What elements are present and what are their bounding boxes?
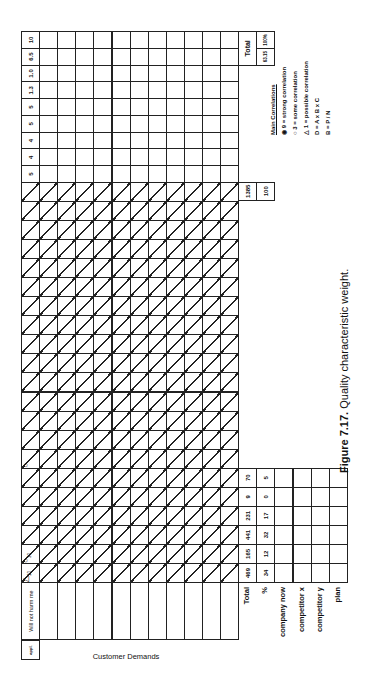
matrix-cell — [93, 468, 112, 488]
customer-demands-title: Customer Demands — [81, 652, 171, 664]
matrix-cell — [39, 430, 58, 450]
weight-cell — [57, 81, 76, 99]
matrix-cell — [93, 334, 112, 354]
matrix-cell — [57, 182, 76, 202]
matrix-cell — [75, 239, 94, 259]
matrix-cell — [184, 563, 203, 583]
weight-cell — [57, 148, 76, 166]
weight-cell — [57, 48, 76, 66]
weight-cell — [220, 148, 239, 166]
matrix-cell — [57, 544, 76, 564]
weight-cell — [57, 165, 76, 183]
matrix-cell — [202, 449, 221, 469]
circle-mark-icon: ○ — [22, 463, 30, 468]
weight-cell — [75, 148, 94, 166]
summary-cell — [293, 468, 312, 488]
matrix-cell — [202, 544, 221, 564]
weight-cell — [148, 132, 167, 150]
matrix-cell — [75, 334, 94, 354]
matrix-cell — [39, 258, 58, 278]
weight-cell — [148, 81, 167, 99]
matrix-cell — [184, 239, 203, 259]
matrix-cell — [112, 449, 131, 469]
matrix-cell — [184, 430, 203, 450]
matrix-cell — [75, 296, 94, 316]
matrix-cell — [39, 487, 58, 507]
demand-label — [112, 582, 131, 640]
weight-cell — [148, 98, 167, 116]
weight-cell — [39, 81, 58, 99]
matrix-cell — [202, 239, 221, 259]
matrix-cell — [220, 544, 239, 564]
matrix-cell — [148, 544, 167, 564]
weight-cell — [202, 31, 221, 49]
legend: Main Correlations ◉ 9 = strong correlati… — [268, 61, 334, 135]
matrix-cell — [166, 296, 185, 316]
weight-cell — [57, 65, 76, 83]
matrix-cell — [21, 392, 40, 412]
matrix-cell — [21, 430, 40, 450]
weight-cell — [220, 115, 239, 133]
matrix-cell — [184, 220, 203, 240]
matrix-cell — [166, 392, 185, 412]
matrix-cell — [75, 563, 94, 583]
matrix-cell — [93, 430, 112, 450]
matrix-cell — [148, 220, 167, 240]
weight-value: 4 — [21, 132, 40, 150]
matrix-cell — [166, 182, 185, 202]
matrix-cell — [148, 258, 167, 278]
legend-strong: 9 = strong correlation — [281, 67, 287, 129]
legend-some: 3 = some correlation — [292, 71, 298, 130]
weight-cell — [93, 115, 112, 133]
matrix-cell — [112, 411, 131, 431]
matrix-cell — [184, 449, 203, 469]
weight-cell — [75, 165, 94, 183]
matrix-cell — [220, 220, 239, 240]
weight-cell — [220, 48, 239, 66]
matrix-cell — [112, 334, 131, 354]
matrix-cell — [75, 430, 94, 450]
weight-cell — [57, 98, 76, 116]
matrix-cell — [166, 239, 185, 259]
summary-value: 5 — [256, 468, 275, 488]
demand-label: Will not harm me — [21, 582, 40, 640]
matrix-cell — [202, 201, 221, 221]
matrix-cell — [148, 182, 167, 202]
matrix-cell — [39, 353, 58, 373]
summary-label: plan — [333, 587, 342, 653]
matrix-cell — [184, 182, 203, 202]
weight-cell — [202, 98, 221, 116]
summary-cell — [274, 544, 293, 564]
matrix-cell — [148, 392, 167, 412]
weight-cell — [184, 98, 203, 116]
matrix-cell — [166, 487, 185, 507]
weight-cell — [112, 132, 131, 150]
matrix-cell — [93, 506, 112, 526]
matrix-cell — [130, 449, 149, 469]
matrix-cell — [166, 525, 185, 545]
matrix-cell — [21, 220, 40, 240]
weight-cell — [220, 31, 239, 49]
matrix-cell — [21, 372, 40, 392]
matrix-cell — [220, 487, 239, 507]
weight-cell — [130, 48, 149, 66]
matrix-cell — [202, 296, 221, 316]
matrix-cell — [184, 487, 203, 507]
matrix-cell — [112, 353, 131, 373]
weight-cell — [148, 31, 167, 49]
matrix-cell — [148, 239, 167, 259]
weight-cell — [93, 148, 112, 166]
matrix-cell — [75, 506, 94, 526]
weight-value: 5 — [21, 98, 40, 116]
summary-cell — [274, 468, 293, 488]
weight-cell — [130, 115, 149, 133]
matrix-cell — [39, 182, 58, 202]
matrix-cell — [130, 487, 149, 507]
matrix-cell — [112, 201, 131, 221]
weight-cell — [93, 81, 112, 99]
weight-value: 5 — [21, 115, 40, 133]
matrix-cell — [130, 239, 149, 259]
matrix-cell — [75, 258, 94, 278]
weight-cell — [93, 165, 112, 183]
summary-cell — [329, 487, 348, 507]
